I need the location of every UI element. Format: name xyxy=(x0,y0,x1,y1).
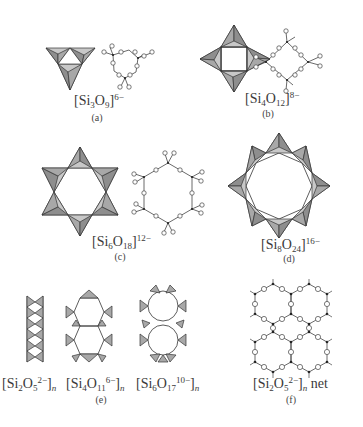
sheet-silicate-net xyxy=(0,0,363,427)
caption-f: (f) xyxy=(279,394,303,405)
formula-f: [Si2O52−]n net xyxy=(253,375,328,393)
